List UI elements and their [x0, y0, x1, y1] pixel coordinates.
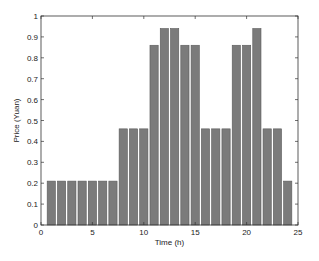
y-tick-label: 0.4	[27, 137, 39, 146]
y-tick-label: 0.9	[27, 33, 39, 42]
bar-hour-10	[140, 129, 148, 225]
y-tick-label: 0.7	[27, 75, 39, 84]
bar-hour-11	[150, 45, 158, 225]
x-tick-label: 20	[242, 228, 251, 237]
bar-hour-19	[232, 45, 240, 225]
bar-hour-4	[78, 181, 86, 225]
x-tick-label: 0	[39, 228, 44, 237]
bar-hour-7	[109, 181, 117, 225]
bar-series	[47, 29, 292, 225]
y-tick-label: 0.3	[27, 158, 39, 167]
bar-hour-22	[263, 129, 271, 225]
bar-hour-3	[68, 181, 76, 225]
y-tick-label: 0.2	[27, 179, 39, 188]
y-tick-label: 1	[34, 12, 39, 21]
x-tick-label: 5	[90, 228, 95, 237]
y-tick-label: 0.1	[27, 200, 39, 209]
bar-hour-5	[88, 181, 96, 225]
y-tick-label: 0.6	[27, 96, 39, 105]
x-tick-label: 10	[139, 228, 148, 237]
bar-hour-21	[253, 29, 261, 225]
bar-hour-13	[171, 29, 179, 225]
bar-hour-16	[201, 129, 209, 225]
bar-hour-2	[57, 181, 65, 225]
bar-hour-15	[191, 45, 199, 225]
bar-hour-8	[119, 129, 127, 225]
bar-hour-6	[99, 181, 107, 225]
y-tick-label: 0.5	[27, 117, 39, 126]
bar-hour-1	[47, 181, 55, 225]
x-axis-title: Time (h)	[155, 238, 185, 247]
bar-hour-23	[273, 129, 281, 225]
bar-hour-18	[222, 129, 230, 225]
y-tick-label: 0.8	[27, 54, 39, 63]
bar-hour-24	[284, 181, 292, 225]
bar-hour-20	[242, 45, 250, 225]
y-axis-title: Price (Yuan)	[12, 98, 21, 142]
bar-hour-14	[181, 45, 189, 225]
bar-hour-12	[160, 29, 168, 225]
price-bar-chart: 00.10.20.30.40.50.60.70.80.91 0510152025…	[0, 0, 319, 261]
x-tick-label: 15	[191, 228, 200, 237]
x-tick-label: 25	[294, 228, 303, 237]
bar-hour-9	[129, 129, 137, 225]
bar-hour-17	[212, 129, 220, 225]
